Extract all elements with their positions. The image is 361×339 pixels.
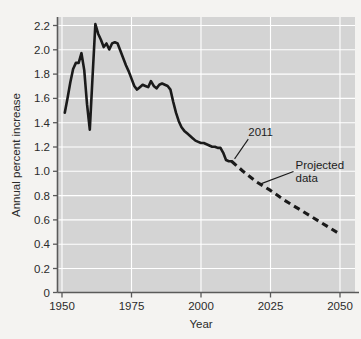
line-chart: 0 0.2 0.4 0.6 0.8 1.0 1.2 1.4 1.6 1.8 2.… (0, 0, 361, 339)
y-tick-label: 0.8 (34, 190, 50, 202)
x-tick-label: 2025 (258, 300, 284, 312)
x-tick-label: 1950 (49, 300, 75, 312)
chart-figure: 0 0.2 0.4 0.6 0.8 1.0 1.2 1.4 1.6 1.8 2.… (0, 0, 361, 339)
annotation-projected-label-line2: data (296, 172, 319, 184)
y-axis-title: Annual percent increase (10, 93, 22, 217)
annotation-projected-label-line1: Projected (296, 159, 345, 171)
y-tick-label: 1.2 (34, 141, 50, 153)
y-tick-label: 0.2 (34, 263, 50, 275)
y-tick-label: 2.2 (34, 20, 50, 32)
y-tick-label: 1.8 (34, 68, 50, 80)
y-tick-label: 1.6 (34, 92, 50, 104)
annotation-2011-label: 2011 (248, 126, 273, 138)
y-tick-label: 1.4 (34, 117, 51, 129)
x-tick-label: 2050 (327, 300, 353, 312)
y-tick-label: 2.0 (34, 44, 50, 56)
y-tick-label: 0.6 (34, 214, 50, 226)
plot-area-background (58, 17, 356, 293)
x-tick-label: 1975 (119, 300, 145, 312)
x-tick-label: 2000 (188, 300, 214, 312)
x-axis-title: Year (189, 318, 212, 330)
y-tick-label: 1.0 (34, 165, 50, 177)
y-tick-label: 0.4 (34, 238, 51, 250)
y-tick-label: 0 (44, 287, 50, 299)
